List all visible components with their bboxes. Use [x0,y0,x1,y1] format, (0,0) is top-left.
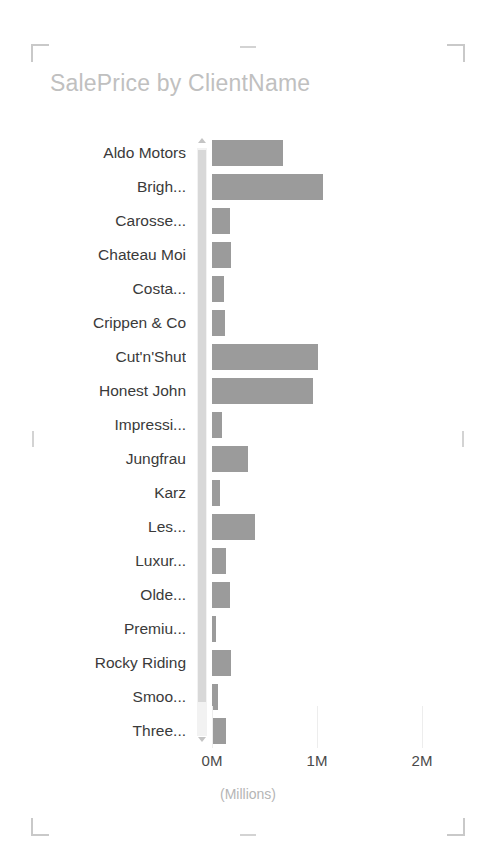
chart-category-row[interactable]: Luxur... [0,544,496,578]
chart-category-row[interactable]: Rocky Riding [0,646,496,680]
chart-category-row[interactable]: Crippen & Co [0,306,496,340]
chart-bar[interactable] [212,242,231,268]
resize-handle-bottom[interactable] [240,834,256,836]
chart-bar[interactable] [212,412,222,438]
chart-visual-container[interactable]: SalePrice by ClientName Aldo MotorsBrigh… [0,0,496,866]
scroll-up-arrow-icon[interactable] [198,138,206,143]
chart-bar[interactable] [212,174,323,200]
chart-category-row[interactable]: Olde... [0,578,496,612]
selection-corner-bottom-left[interactable] [31,818,49,836]
x-axis: (Millions) 0M1M2M [0,748,496,808]
category-axis-label: Honest John [0,374,186,408]
category-axis-label: Three... [0,714,186,748]
chart-category-row[interactable]: Chateau Moi [0,238,496,272]
chart-category-row[interactable]: Carosse... [0,204,496,238]
chart-title: SalePrice by ClientName [50,70,310,97]
chart-category-row[interactable]: Impressi... [0,408,496,442]
chart-bar[interactable] [212,344,318,370]
category-axis-label: Les... [0,510,186,544]
chart-bar[interactable] [212,582,230,608]
resize-handle-top[interactable] [240,46,256,48]
category-axis-label: Carosse... [0,204,186,238]
chart-category-row[interactable]: Costa... [0,272,496,306]
x-axis-tick-label: 1M [307,752,328,769]
x-axis-tick-line [317,706,318,748]
category-axis-label: Costa... [0,272,186,306]
chart-bar[interactable] [212,616,216,642]
chart-bar[interactable] [212,718,226,744]
category-axis-label: Olde... [0,578,186,612]
chart-category-row[interactable]: Aldo Motors [0,136,496,170]
x-axis-tick-label: 2M [412,752,433,769]
chart-category-row[interactable]: Jungfrau [0,442,496,476]
chart-bar[interactable] [212,514,255,540]
selection-corner-top-left[interactable] [31,44,49,62]
chart-plot-area[interactable]: Aldo MotorsBrigh...Carosse...Chateau Moi… [0,136,496,748]
chart-bar[interactable] [212,446,248,472]
chart-category-row[interactable]: Les... [0,510,496,544]
chart-bar[interactable] [212,276,224,302]
category-axis-label: Premiu... [0,612,186,646]
category-axis-label: Impressi... [0,408,186,442]
category-axis-label: Karz [0,476,186,510]
category-axis-scrollbar[interactable] [197,136,207,748]
x-axis-tick-line [212,706,213,748]
chart-bar[interactable] [212,480,220,506]
scrollbar-thumb[interactable] [198,150,206,702]
chart-bar[interactable] [212,378,313,404]
chart-bar[interactable] [212,548,226,574]
x-axis-tick-line [422,706,423,748]
x-axis-tick-label: 0M [202,752,223,769]
category-axis-label: Cut'n'Shut [0,340,186,374]
chart-bar[interactable] [212,650,231,676]
category-axis-label: Jungfrau [0,442,186,476]
category-axis-label: Rocky Riding [0,646,186,680]
selection-corner-top-right[interactable] [447,44,465,62]
category-axis-label: Brigh... [0,170,186,204]
chart-bar[interactable] [212,140,283,166]
category-axis-label: Chateau Moi [0,238,186,272]
chart-category-row[interactable]: Brigh... [0,170,496,204]
chart-category-row[interactable]: Honest John [0,374,496,408]
selection-corner-bottom-right[interactable] [447,818,465,836]
chart-category-row[interactable]: Karz [0,476,496,510]
x-axis-title: (Millions) [0,786,496,802]
chart-category-row[interactable]: Cut'n'Shut [0,340,496,374]
scroll-down-arrow-icon[interactable] [198,737,206,742]
chart-bar[interactable] [212,310,225,336]
category-axis-label: Crippen & Co [0,306,186,340]
chart-category-row[interactable]: Premiu... [0,612,496,646]
category-axis-label: Luxur... [0,544,186,578]
category-axis-label: Aldo Motors [0,136,186,170]
category-axis-label: Smoo... [0,680,186,714]
chart-bar[interactable] [212,208,230,234]
